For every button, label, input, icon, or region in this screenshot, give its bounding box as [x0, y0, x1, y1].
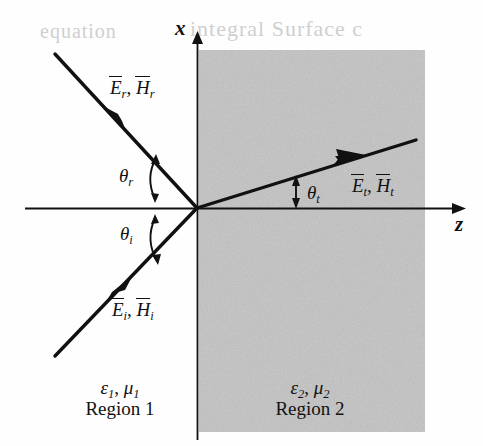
- region2-shading: [199, 50, 425, 432]
- incident-H-overline: H: [137, 300, 151, 319]
- region1-separator: ,: [114, 377, 124, 398]
- transmitted-separator: ,: [367, 175, 377, 196]
- reflected-separator: ,: [127, 77, 137, 98]
- z-axis-label: z: [455, 214, 463, 235]
- x-axis-label: x: [175, 18, 186, 39]
- transmission-angle-subscript: t: [316, 192, 319, 206]
- reflected-wave-label: Er, Hr: [110, 78, 155, 97]
- reflected-H-subscript: r: [150, 87, 155, 101]
- incident-separator: ,: [127, 299, 137, 320]
- reflection-angle-label: θr: [119, 166, 133, 185]
- incident-E-subscript: i: [124, 309, 127, 323]
- incidence-angle-label: θi: [120, 224, 133, 243]
- transmitted-E-subscript: t: [364, 185, 367, 199]
- region1-parameters: ε1, μ1: [60, 378, 180, 397]
- transmitted-H-symbol: H: [377, 175, 391, 196]
- incidence-angle-subscript: i: [129, 233, 132, 247]
- region2-epsilon: ε: [290, 377, 298, 398]
- region2-name: Region 2: [250, 399, 370, 418]
- reflection-angle-subscript: r: [128, 175, 133, 189]
- incidence-angle-symbol: θ: [120, 223, 129, 244]
- region1-mu: μ: [124, 377, 134, 398]
- transmission-angle-label: θt: [307, 183, 320, 202]
- region2-label: ε2, μ2 Region 2: [250, 378, 370, 418]
- region1-label: ε1, μ1 Region 1: [60, 378, 180, 418]
- incidence-angle-arc: [150, 214, 161, 265]
- reflection-angle-symbol: θ: [119, 165, 128, 186]
- transmitted-H-overline: H: [377, 176, 391, 195]
- region2-parameters: ε2, μ2: [250, 378, 370, 397]
- region1-mu-subscript: 1: [133, 387, 139, 401]
- incident-H-subscript: i: [150, 309, 153, 323]
- reflected-E-overline: E: [110, 78, 122, 97]
- transmission-angle-symbol: θ: [307, 182, 316, 203]
- wave-interface-diagram: integral Surface c equation: [0, 0, 483, 446]
- reflected-E-symbol: E: [110, 77, 122, 98]
- region1-epsilon: ε: [100, 377, 108, 398]
- reflected-H-overline: H: [136, 78, 150, 97]
- region2-mu-subscript: 2: [323, 387, 329, 401]
- transmitted-E-symbol: E: [352, 175, 364, 196]
- incident-H-symbol: H: [137, 299, 151, 320]
- incident-E-symbol: E: [112, 299, 124, 320]
- reflected-H-symbol: H: [136, 77, 150, 98]
- transmitted-wave-label: Et, Ht: [352, 176, 394, 195]
- region1-epsilon-subscript: 1: [108, 387, 114, 401]
- incident-wave-label: Ei, Hi: [112, 300, 154, 319]
- transmitted-E-overline: E: [352, 176, 364, 195]
- reflected-E-subscript: r: [122, 87, 127, 101]
- region2-mu: μ: [314, 377, 324, 398]
- region2-epsilon-subscript: 2: [298, 387, 304, 401]
- incident-E-overline: E: [112, 300, 124, 319]
- region2-separator: ,: [304, 377, 314, 398]
- transmitted-H-subscript: t: [390, 185, 393, 199]
- region1-name: Region 1: [60, 399, 180, 418]
